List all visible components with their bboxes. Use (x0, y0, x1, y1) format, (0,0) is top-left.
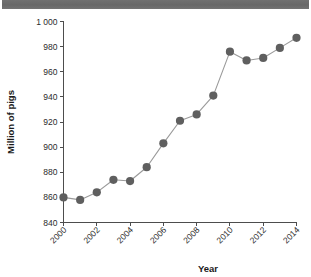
y-tick-label: 900 (43, 142, 57, 152)
y-tick-label: 860 (43, 192, 57, 202)
data-point (59, 193, 67, 201)
x-tick-label: 2004 (115, 225, 136, 246)
data-point (126, 177, 134, 185)
y-tick-label: 1 000 (36, 17, 58, 27)
y-tick-label: 920 (43, 117, 57, 127)
data-point (76, 196, 84, 204)
data-point (259, 54, 267, 62)
x-tick-label: 2002 (81, 225, 102, 246)
y-axis-title: Million of pigs (5, 90, 16, 154)
x-tick-label: 2008 (181, 225, 202, 246)
series-markers (59, 34, 300, 204)
x-tick-label: 2014 (281, 225, 302, 246)
y-tick-label: 940 (43, 92, 57, 102)
x-tick-label: 2010 (214, 225, 235, 246)
y-axis-ticks: 8408608809009209409609801 000 (36, 17, 63, 228)
chart-figure: 8408608809009209409609801 000 2000200220… (0, 0, 311, 277)
y-tick-label: 980 (43, 42, 57, 52)
y-tick-label: 960 (43, 67, 57, 77)
y-tick-label: 840 (43, 218, 57, 228)
data-point (292, 34, 300, 42)
data-point (109, 176, 117, 184)
data-point (93, 188, 101, 196)
data-point (143, 163, 151, 171)
data-point (226, 48, 234, 56)
x-axis: 20002002200420062008201020122014 (48, 223, 302, 246)
y-axis: 8408608809009209409609801 000 (36, 17, 63, 228)
data-point (159, 139, 167, 147)
line-chart-plot: 8408608809009209409609801 000 2000200220… (0, 0, 311, 277)
data-point (276, 44, 284, 52)
data-point (242, 56, 250, 64)
data-series (59, 34, 300, 204)
y-tick-label: 880 (43, 167, 57, 177)
data-point (176, 117, 184, 125)
data-point (193, 110, 201, 118)
x-tick-label: 2006 (148, 225, 169, 246)
data-point (209, 92, 217, 100)
x-tick-label: 2000 (48, 225, 69, 246)
x-axis-ticks: 20002002200420062008201020122014 (48, 223, 302, 246)
x-axis-title: Year (198, 263, 218, 274)
x-tick-label: 2012 (248, 225, 269, 246)
